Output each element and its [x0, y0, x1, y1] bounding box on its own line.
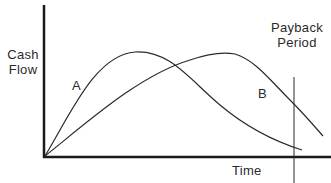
curve-a-label: A [72, 78, 81, 93]
y-axis-label-line1: Cash [5, 47, 41, 62]
x-axis-label: Time [232, 163, 262, 178]
payback-label-line1: Payback [266, 20, 328, 35]
y-axis-label-line2: Flow [5, 62, 41, 77]
curve-a [45, 52, 302, 156]
y-axis-label: Cash Flow [5, 47, 41, 77]
curve-b [45, 53, 323, 156]
payback-period-label: Payback Period [266, 20, 328, 50]
payback-label-line2: Period [266, 35, 328, 50]
curve-b-label: B [258, 86, 267, 101]
